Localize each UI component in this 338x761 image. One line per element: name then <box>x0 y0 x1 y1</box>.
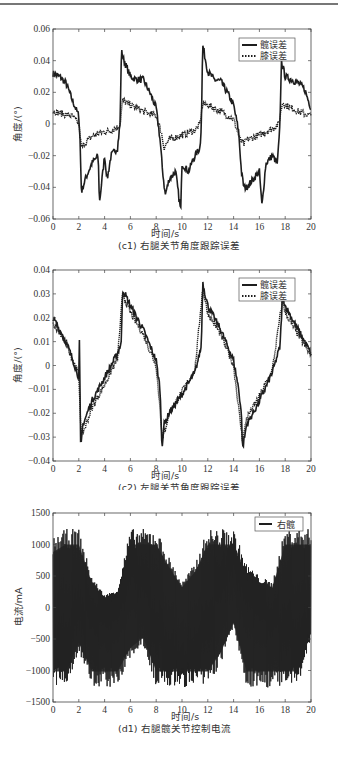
x-tick-label: 8 <box>154 705 159 715</box>
series-hip-error <box>53 282 311 447</box>
y-tick-label: 1000 <box>31 540 50 550</box>
y-tick-label: −0.03 <box>28 432 50 442</box>
x-tick-label: 18 <box>280 705 290 715</box>
x-tick-label: 0 <box>51 705 56 715</box>
y-tick-label: 0 <box>45 361 50 371</box>
x-tick-label: 14 <box>229 222 239 232</box>
d1-ylabel: 电流/mA <box>13 587 24 626</box>
x-tick-label: 16 <box>255 464 265 474</box>
chart-c2-left-leg-angle-error: 02468101214161820−0.04−0.03−0.02−0.0100.… <box>0 250 338 490</box>
x-tick-label: 20 <box>306 705 316 715</box>
x-tick-label: 20 <box>306 464 316 474</box>
c1-caption: (c1) 右腿关节角度跟踪误差 <box>118 240 240 250</box>
y-tick-label: 0.02 <box>33 313 50 323</box>
series-hip-error <box>53 46 311 208</box>
c1-legend-hip: 髋误差 <box>260 39 287 50</box>
d1-xlabel: 时间/s <box>171 711 199 722</box>
c1-plot-area <box>53 46 311 208</box>
y-tick-label: 500 <box>36 571 51 581</box>
c1-xlabel: 时间/s <box>151 228 179 239</box>
y-tick-label: −500 <box>30 634 50 644</box>
x-tick-label: 20 <box>306 222 316 232</box>
y-tick-label: 0.04 <box>33 265 50 275</box>
y-tick-label: 0.04 <box>33 56 50 66</box>
y-tick-label: 0 <box>45 603 50 613</box>
x-tick-label: 4 <box>102 222 107 232</box>
x-tick-label: 12 <box>203 222 213 232</box>
x-tick-label: 2 <box>76 464 81 474</box>
d1-legend: 右髋 <box>255 517 303 531</box>
y-tick-label: −0.01 <box>28 384 50 394</box>
x-tick-label: 0 <box>51 464 56 474</box>
c2-legend-hip: 髋误差 <box>260 279 287 290</box>
x-tick-label: 14 <box>229 464 239 474</box>
x-tick-label: 16 <box>255 705 265 715</box>
c2-legend: 髋误差 膝误差 <box>239 278 295 301</box>
y-tick-label: −0.04 <box>28 456 50 466</box>
d1-plot-area <box>53 529 311 687</box>
x-tick-label: 12 <box>203 464 213 474</box>
series-knee-error <box>53 290 311 443</box>
x-tick-label: 4 <box>102 464 107 474</box>
current-density-band <box>53 545 311 672</box>
x-tick-label: 0 <box>51 222 56 232</box>
x-tick-label: 6 <box>128 464 133 474</box>
y-tick-label: −1000 <box>26 666 51 676</box>
chart-c1-right-leg-angle-error: 02468101214161820−0.06−0.04−0.0200.020.0… <box>0 0 338 250</box>
x-tick-label: 4 <box>102 705 107 715</box>
c2-legend-knee: 膝误差 <box>260 290 287 301</box>
c1-legend: 髋误差 膝误差 <box>239 38 295 61</box>
y-tick-label: 0.06 <box>33 24 50 34</box>
c1-ylabel: 角度/(°) <box>12 106 23 141</box>
c2-plot-area <box>53 282 311 447</box>
y-tick-label: −0.04 <box>28 182 50 192</box>
x-tick-label: 16 <box>255 222 265 232</box>
y-tick-label: −1500 <box>26 697 51 707</box>
x-tick-label: 12 <box>203 705 213 715</box>
x-tick-label: 14 <box>229 705 239 715</box>
x-tick-label: 6 <box>128 705 133 715</box>
series-knee-error <box>53 99 311 151</box>
y-tick-label: −0.02 <box>28 408 50 418</box>
y-tick-label: 0.03 <box>33 289 50 299</box>
d1-caption: (d1) 右腿髋关节控制电流 <box>118 723 231 734</box>
c2-xlabel: 时间/s <box>151 470 179 481</box>
c2-caption: (c2) 左腿关节角度跟踪误差 <box>118 482 240 490</box>
y-tick-label: 1500 <box>31 508 50 518</box>
y-tick-label: 0 <box>45 119 50 129</box>
x-tick-label: 6 <box>128 222 133 232</box>
y-tick-label: −0.02 <box>28 151 50 161</box>
y-tick-label: 0.02 <box>33 87 50 97</box>
x-tick-label: 2 <box>76 705 81 715</box>
x-tick-label: 2 <box>76 222 81 232</box>
x-tick-label: 18 <box>280 464 290 474</box>
c1-legend-knee: 膝误差 <box>260 50 287 61</box>
x-tick-label: 18 <box>280 222 290 232</box>
y-tick-label: −0.06 <box>28 214 50 224</box>
d1-legend-right-hip: 右髋 <box>277 519 295 530</box>
chart-d1-right-hip-current: 02468101214161820−1500−1000−500050010001… <box>0 490 338 761</box>
c2-ylabel: 角度/(°) <box>12 347 23 382</box>
y-tick-label: 0.01 <box>33 337 50 347</box>
